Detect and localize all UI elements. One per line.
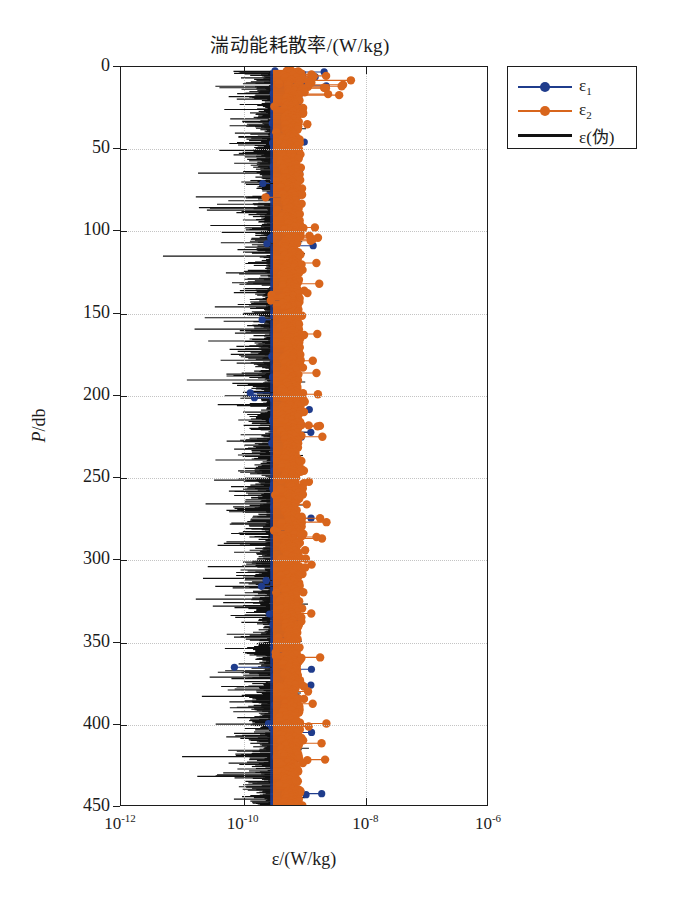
x-tick-label: 10-10 xyxy=(227,812,259,834)
legend-item[interactable]: ε1 xyxy=(508,75,636,99)
x-tick-label-exponent: -10 xyxy=(244,812,259,824)
gridline-horizontal xyxy=(121,725,487,726)
y-tick-label: 350 xyxy=(32,631,110,652)
chart-figure: 湍动能耗散率/(W/kg) 05010015020025030035040045… xyxy=(0,0,681,919)
y-tick-mark xyxy=(113,806,120,807)
y-tick-mark xyxy=(121,560,127,561)
x-tick-label-base: 10 xyxy=(475,814,492,833)
y-tick-label: 200 xyxy=(32,384,110,405)
x-tick-mark-top xyxy=(244,67,245,74)
y-tick-mark xyxy=(121,231,127,232)
data-series-canvas xyxy=(121,67,488,806)
x-tick-label-exponent: -8 xyxy=(369,812,378,824)
y-tick-mark xyxy=(113,642,120,643)
plot-area xyxy=(120,66,488,806)
legend-label: ε(伪) xyxy=(579,123,614,148)
legend-swatch xyxy=(518,104,572,118)
legend-label-base: ε(伪) xyxy=(579,128,614,147)
x-tick-label-exponent: -6 xyxy=(492,812,501,824)
y-tick-label: 450 xyxy=(32,795,110,816)
gridline-horizontal xyxy=(121,231,487,232)
y-tick-mark xyxy=(113,477,120,478)
y-tick-label: 300 xyxy=(32,548,110,569)
y-tick-mark xyxy=(113,66,120,67)
y-axis-title-unit: /db xyxy=(29,408,49,431)
x-tick-label-base: 10 xyxy=(104,814,121,833)
legend: ε1ε2ε(伪) xyxy=(507,66,637,149)
y-tick-label: 250 xyxy=(32,466,110,487)
legend-item[interactable]: ε2 xyxy=(508,99,636,123)
legend-label: ε1 xyxy=(579,76,592,97)
y-tick-label: 150 xyxy=(32,302,110,323)
legend-swatch xyxy=(518,80,572,94)
y-tick-mark xyxy=(121,149,127,150)
x-tick-label-base: 10 xyxy=(227,814,244,833)
gridline-horizontal xyxy=(121,643,487,644)
y-tick-mark xyxy=(113,230,120,231)
legend-label: ε2 xyxy=(579,100,592,121)
gridline-vertical xyxy=(366,67,367,805)
y-tick-mark xyxy=(113,559,120,560)
y-tick-mark xyxy=(113,313,120,314)
legend-swatch xyxy=(518,128,572,142)
gridline-horizontal xyxy=(121,478,487,479)
x-tick-mark-top xyxy=(366,67,367,74)
y-tick-mark xyxy=(113,395,120,396)
x-tick-label: 10-8 xyxy=(352,812,378,834)
y-tick-mark xyxy=(113,724,120,725)
x-tick-label-base: 10 xyxy=(352,814,369,833)
y-tick-mark xyxy=(121,725,127,726)
gridline-horizontal xyxy=(121,560,487,561)
gridline-horizontal xyxy=(121,149,487,150)
y-tick-label: 50 xyxy=(32,137,110,158)
y-tick-mark xyxy=(121,314,127,315)
chart-title: 湍动能耗散率/(W/kg) xyxy=(0,30,600,57)
legend-line xyxy=(518,134,572,137)
x-tick-mark xyxy=(366,798,367,805)
legend-marker-icon xyxy=(540,82,550,92)
x-tick-label: 10-12 xyxy=(104,812,136,834)
y-axis-title: P/db xyxy=(29,408,50,442)
x-tick-label-exponent: -12 xyxy=(121,812,136,824)
x-tick-label: 10-6 xyxy=(475,812,501,834)
legend-item[interactable]: ε(伪) xyxy=(508,123,636,147)
y-tick-mark xyxy=(121,478,127,479)
gridline-horizontal xyxy=(121,314,487,315)
legend-label-subscript: 2 xyxy=(586,110,592,122)
legend-label-subscript: 1 xyxy=(586,86,592,98)
y-tick-label: 100 xyxy=(32,219,110,240)
y-tick-mark xyxy=(113,148,120,149)
gridline-vertical xyxy=(244,67,245,805)
y-tick-mark xyxy=(121,396,127,397)
legend-marker-icon xyxy=(540,106,550,116)
gridline-horizontal xyxy=(121,396,487,397)
y-tick-label: 400 xyxy=(32,713,110,734)
x-axis-title: ε/(W/kg) xyxy=(120,849,488,870)
y-tick-mark xyxy=(121,643,127,644)
y-tick-label: 0 xyxy=(32,55,110,76)
y-axis-title-symbol: P xyxy=(29,432,49,443)
x-tick-mark xyxy=(244,798,245,805)
